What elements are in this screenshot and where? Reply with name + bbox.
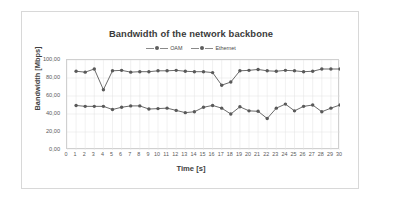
data-point-oam-22 — [266, 69, 269, 72]
x-tick-label: 30 — [336, 151, 342, 157]
data-point-ethernet-16 — [211, 104, 214, 107]
x-tick-label: 16 — [209, 151, 215, 157]
x-tick-label: 11 — [163, 151, 169, 157]
data-point-ethernet-10 — [156, 107, 159, 110]
data-point-oam-16 — [211, 71, 214, 74]
x-tick-label: 28 — [318, 151, 324, 157]
data-point-oam-20 — [247, 69, 250, 72]
data-point-ethernet-30 — [338, 103, 340, 106]
x-tick-label: 17 — [218, 151, 224, 157]
x-tick-label: 2 — [83, 151, 86, 157]
data-point-ethernet-12 — [175, 109, 178, 112]
data-point-ethernet-17 — [220, 106, 223, 109]
x-tick-label: 13 — [181, 151, 187, 157]
x-tick-label: 14 — [190, 151, 196, 157]
x-axis-tick-labels: 0123456789101112131415161718192021222324… — [66, 151, 339, 161]
data-point-ethernet-29 — [329, 106, 332, 109]
y-tick-label: 100,00 — [43, 56, 60, 62]
data-point-oam-9 — [147, 70, 150, 73]
y-tick-label: 80,00 — [46, 74, 60, 80]
x-tick-label: 12 — [172, 151, 178, 157]
data-point-ethernet-9 — [147, 107, 150, 110]
data-point-ethernet-6 — [120, 106, 123, 109]
x-axis-title: Time [s] — [22, 164, 360, 173]
data-point-ethernet-11 — [165, 106, 168, 109]
x-tick-label: 23 — [272, 151, 278, 157]
data-point-ethernet-13 — [184, 111, 187, 114]
data-point-oam-18 — [229, 80, 232, 83]
legend-line-icon — [146, 48, 154, 49]
data-point-ethernet-15 — [202, 106, 205, 109]
data-point-oam-8 — [138, 70, 141, 73]
data-point-oam-24 — [284, 69, 287, 72]
x-tick-label: 4 — [101, 151, 104, 157]
data-point-oam-7 — [129, 70, 132, 73]
data-point-oam-30 — [338, 67, 340, 70]
legend-item-oam[interactable]: OAM — [146, 45, 182, 51]
data-point-oam-21 — [256, 68, 259, 71]
data-point-ethernet-4 — [102, 105, 105, 108]
data-point-oam-23 — [275, 70, 278, 73]
data-point-ethernet-5 — [111, 108, 114, 111]
x-tick-label: 27 — [309, 151, 315, 157]
data-point-ethernet-14 — [193, 110, 196, 113]
data-point-oam-3 — [93, 67, 96, 70]
legend-item-ethernet[interactable]: Ethernet — [191, 45, 235, 51]
x-tick-label: 7 — [128, 151, 131, 157]
legend-marker-icon — [155, 46, 159, 50]
data-point-oam-17 — [220, 84, 223, 87]
legend-line-icon — [205, 48, 213, 49]
data-point-ethernet-24 — [284, 102, 287, 105]
data-point-oam-28 — [320, 67, 323, 70]
data-point-oam-4 — [102, 88, 105, 91]
legend-label-oam: OAM — [170, 45, 182, 51]
data-point-oam-25 — [293, 69, 296, 72]
data-point-oam-27 — [311, 70, 314, 73]
x-tick-label: 20 — [245, 151, 251, 157]
chart-title: Bandwidth of the network backbone — [22, 28, 360, 39]
data-point-oam-5 — [111, 69, 114, 72]
x-tick-label: 21 — [254, 151, 260, 157]
legend-line-icon — [160, 48, 168, 49]
x-tick-label: 15 — [200, 151, 206, 157]
legend-label-ethernet: Ethernet — [215, 45, 235, 51]
x-tick-label: 9 — [146, 151, 149, 157]
x-tick-label: 8 — [137, 151, 140, 157]
data-point-oam-29 — [329, 67, 332, 70]
x-tick-label: 0 — [65, 151, 68, 157]
data-point-ethernet-19 — [238, 105, 241, 108]
x-tick-label: 26 — [300, 151, 306, 157]
data-point-ethernet-27 — [311, 103, 314, 106]
data-point-ethernet-26 — [302, 105, 305, 108]
chart-svg — [67, 60, 340, 150]
x-tick-label: 10 — [154, 151, 160, 157]
plot-area — [66, 59, 339, 149]
data-point-oam-1 — [74, 70, 77, 73]
data-point-ethernet-7 — [129, 104, 132, 107]
chart-card: Bandwidth of the network backbone OAM Et… — [21, 11, 359, 189]
y-tick-label: 60,00 — [46, 92, 60, 98]
data-point-oam-13 — [184, 70, 187, 73]
series-line-oam — [76, 69, 340, 90]
x-tick-label: 25 — [291, 151, 297, 157]
data-point-ethernet-20 — [247, 109, 250, 112]
data-point-ethernet-1 — [74, 104, 77, 107]
plot-area-wrapper — [66, 59, 339, 149]
x-tick-label: 6 — [119, 151, 122, 157]
data-point-oam-10 — [156, 69, 159, 72]
y-tick-label: 20,00 — [46, 128, 60, 134]
x-tick-label: 24 — [281, 151, 287, 157]
data-point-ethernet-21 — [256, 110, 259, 113]
data-point-ethernet-28 — [320, 110, 323, 113]
y-tick-label: 0,00 — [49, 146, 60, 152]
data-point-ethernet-25 — [293, 109, 296, 112]
data-point-ethernet-22 — [266, 117, 269, 120]
data-point-oam-2 — [84, 70, 87, 73]
series-line-ethernet — [76, 104, 340, 118]
x-tick-label: 3 — [92, 151, 95, 157]
data-point-oam-15 — [202, 70, 205, 73]
y-tick-label: 40,00 — [46, 110, 60, 116]
x-tick-label: 22 — [263, 151, 269, 157]
data-point-ethernet-3 — [93, 105, 96, 108]
data-point-oam-6 — [120, 69, 123, 72]
